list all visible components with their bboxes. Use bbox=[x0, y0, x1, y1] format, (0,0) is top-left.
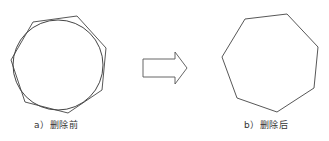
heptagon-before bbox=[11, 16, 106, 113]
panel-a-before bbox=[11, 16, 106, 113]
panel-b-after bbox=[222, 14, 318, 112]
caption-before: a）删除前 bbox=[34, 118, 78, 131]
right-arrow-icon bbox=[143, 52, 187, 84]
caption-after: b）删除后 bbox=[244, 118, 288, 131]
heptagon-after bbox=[222, 14, 318, 112]
